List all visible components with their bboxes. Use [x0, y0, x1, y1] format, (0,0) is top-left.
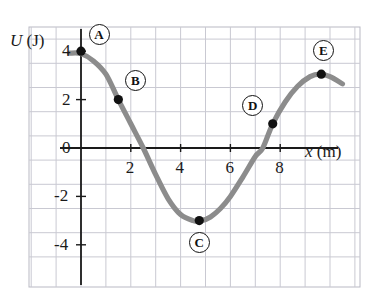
- point-label-a: A: [89, 24, 110, 45]
- x-axis-unit: (m): [317, 142, 342, 161]
- y-axis-symbol: U: [10, 31, 22, 50]
- y-tick-label: 2: [62, 91, 71, 108]
- y-axis-label: U (J): [10, 32, 44, 49]
- y-tick-label: 0: [62, 139, 71, 156]
- x-tick-label: 2: [126, 159, 135, 176]
- point-label-c: C: [189, 232, 210, 253]
- x-tick-label: 6: [225, 159, 234, 176]
- data-point-d: [268, 119, 277, 128]
- x-axis-symbol: x: [305, 142, 313, 161]
- y-tick-label: 4: [62, 42, 71, 59]
- x-tick-label: 8: [275, 159, 284, 176]
- y-tick-label: -2: [54, 187, 68, 204]
- point-label-e: E: [313, 40, 334, 61]
- potential-energy-figure: 2468 420-2-4 ABCDE U (J) x (m): [0, 0, 372, 303]
- x-axis-label: x (m): [305, 143, 341, 160]
- data-point-e: [317, 70, 326, 79]
- y-axis-unit: (J): [27, 31, 45, 50]
- y-tick-label: -4: [54, 236, 68, 253]
- point-label-b: B: [125, 70, 146, 91]
- x-tick-label: 4: [176, 159, 185, 176]
- data-point-a: [76, 47, 85, 56]
- data-point-c: [195, 216, 204, 225]
- data-point-b: [114, 95, 123, 104]
